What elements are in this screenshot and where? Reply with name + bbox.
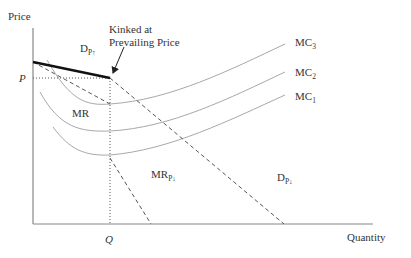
quantity-axis-label: Quantity — [347, 231, 386, 243]
kink-arrow — [113, 47, 124, 73]
q-tick-label: Q — [105, 233, 113, 245]
mc2-curve — [40, 72, 285, 131]
kink-annotation-line2: Prevailing Price — [109, 36, 180, 48]
d-up-label: DP↑ — [80, 42, 96, 57]
d-upper-line — [33, 62, 110, 78]
mc2-label: MC2 — [295, 66, 316, 81]
kink-annotation-line1: Kinked at — [109, 23, 152, 35]
kinked-demand-diagram: Price Quantity P Q Kinked at Prevailing … — [0, 0, 411, 258]
mr-upper-line — [33, 62, 110, 104]
p-tick-label: P — [18, 72, 26, 84]
mc3-label: MC3 — [295, 36, 316, 51]
mr-lower-line — [110, 158, 151, 224]
mr-down-label: MRP↓ — [151, 168, 176, 183]
price-axis-label: Price — [8, 10, 31, 22]
d-down-label: DP↓ — [277, 171, 293, 186]
mc1-label: MC1 — [295, 90, 316, 105]
mr-label: MR — [72, 107, 90, 119]
mc1-curve — [53, 95, 285, 155]
